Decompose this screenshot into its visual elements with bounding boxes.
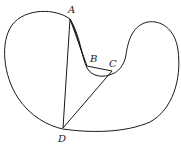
geometry-diagram: A B C D (0, 0, 181, 145)
outer-curve (5, 11, 179, 131)
label-C: C (109, 58, 117, 69)
label-A: A (67, 4, 75, 15)
label-D: D (57, 133, 66, 144)
segment-DA (63, 19, 70, 128)
segment-CD (63, 71, 112, 128)
segment-AB (70, 19, 87, 66)
label-B: B (89, 53, 97, 64)
